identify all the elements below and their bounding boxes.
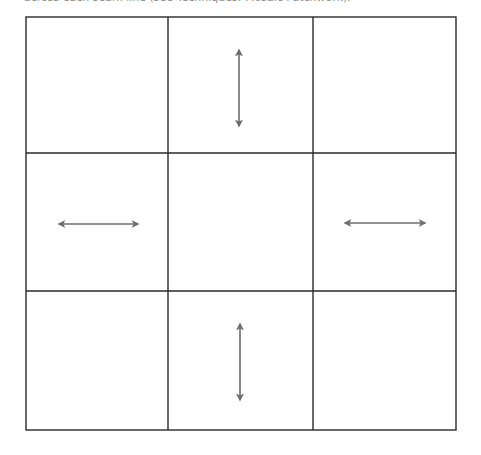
pressing-arrows (59, 50, 425, 400)
patchwork-grid-diagram (0, 0, 481, 455)
